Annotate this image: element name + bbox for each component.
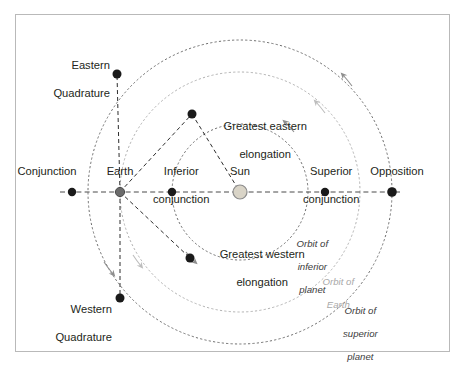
orbit-superior-planet-label-line3: planet [347,351,373,362]
inferior-conjunction-label-line1: Inferior [164,165,199,177]
orbit-inferior-planet-label-line1: Orbit of [297,238,328,249]
eastern-quadrature-label-line2: Quadrature [53,87,110,99]
point-greatest-western-elongation[interactable] [186,254,195,263]
greatest-eastern-elongation-label-line2: elongation [239,148,291,160]
orbit-earth-label-line1: Orbit of [323,276,354,287]
point-western-quadrature[interactable] [116,294,125,303]
conjunction-label: Conjunction [2,164,92,178]
point-eastern-quadrature[interactable] [113,70,122,79]
western-quadrature-label-line1: Western [71,303,112,315]
greatest-eastern-elongation-label: Greatest eastern elongation [200,105,318,175]
direction-arrow-earth-left [133,255,141,266]
orbit-superior-planet-label-line1: Orbit of [345,305,376,316]
sun-body [233,185,247,199]
eastern-quadrature-label: Eastern Quadrature [14,44,110,114]
inferior-conjunction-label-line2: conjunction [153,193,210,205]
greatest-eastern-elongation-label-line1: Greatest eastern [224,120,307,132]
superior-conjunction-label-line2: conjunction [303,193,360,205]
direction-arrow-superior-right [343,75,352,86]
opposition-label: Opposition [357,164,437,178]
point-opposition[interactable] [387,187,397,197]
point-greatest-eastern-elongation[interactable] [188,110,197,119]
western-quadrature-label-line2: Quadrature [55,331,112,343]
orbit-superior-planet-label-line2: superior [343,328,378,339]
eastern-quadrature-label-line1: Eastern [71,59,110,71]
point-conjunction[interactable] [68,188,76,196]
direction-arrow-superior-left [104,262,113,274]
western-quadrature-label: Western Quadrature [16,288,112,358]
diagram-canvas: Sun Earth Conjunction Inferior conjuncti… [0,0,466,367]
orbit-superior-planet-label: Orbit of superior planet [318,293,392,367]
earth-body [115,187,124,196]
